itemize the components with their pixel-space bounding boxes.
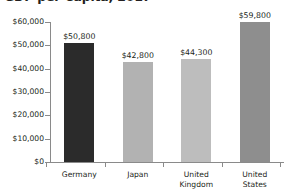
y-axis-tick-label: $20,000 [0,111,44,119]
x-axis-label-line: Japan [109,170,168,180]
bar-column: $50,800 [64,22,94,162]
bar-value-label: $59,800 [239,11,271,20]
y-axis-tick-label: $40,000 [0,65,44,73]
y-axis-tick-label-text: $10,000 [0,135,44,143]
bar-value-label: $44,300 [180,48,212,57]
x-axis-label-line: Germany [50,170,109,180]
x-axis-tick [280,162,281,167]
bar-column: $44,300 [181,22,211,162]
bar-value-label: $42,800 [122,51,154,60]
x-axis-label-japan: Japan [109,170,168,180]
y-axis-tick-label: $30,000 [0,88,44,96]
bar-germany[interactable] [64,43,94,162]
y-axis-tick-label-text: $50,000 [0,41,44,49]
bar-united-kingdom[interactable] [181,59,211,162]
y-axis-tick-label: $50,000 [0,41,44,49]
x-axis-tick [46,162,47,167]
bar-value-label: $50,800 [63,32,95,41]
x-axis-label-germany: Germany [50,170,109,180]
x-axis-tick [105,162,106,167]
x-axis-tick [163,162,164,167]
bar-column: $59,800 [240,22,270,162]
x-axis-label-line: States [226,180,285,190]
y-axis-tick-label: $10,000 [0,135,44,143]
y-axis-tick-label: $0 [0,158,44,166]
y-axis-tick-label-text: $60,000 [0,18,44,26]
y-axis-tick-label-text: $20,000 [0,111,44,119]
plot-area: $50,800$42,800$44,300$59,800 [50,22,284,162]
x-axis-label-united-states: UnitedStates [226,170,285,189]
x-axis-label-line: United [226,170,285,180]
x-axis-label-united-kingdom: UnitedKingdom [167,170,226,189]
y-axis-tick-label: $60,000 [0,18,44,26]
gdp-per-capita-bar-chart: GDP per Capita, 2017 $0$10,000$20,000$30… [0,0,289,191]
x-axis-line [46,162,284,163]
x-axis-label-line: Kingdom [167,180,226,190]
bar-column: $42,800 [123,22,153,162]
y-axis-tick-label-text: $30,000 [0,88,44,96]
chart-title: GDP per Capita, 2017 [4,0,151,4]
bar-united-states[interactable] [240,22,270,162]
x-axis-tick [222,162,223,167]
bar-japan[interactable] [123,62,153,162]
y-axis-tick-label-text: $0 [0,158,44,166]
x-axis-label-line: United [167,170,226,180]
y-axis-tick-label-text: $40,000 [0,65,44,73]
